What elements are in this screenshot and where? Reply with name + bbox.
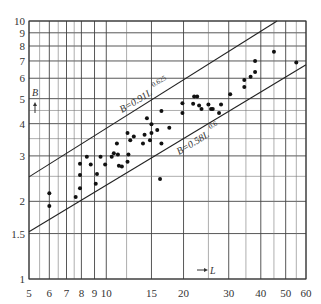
fit-lines [29, 21, 306, 232]
x-tick-labels: 5678910152030405060 [26, 287, 312, 299]
right-arrowhead-icon [204, 268, 208, 272]
data-point [85, 155, 89, 159]
y-axis-label: B [32, 87, 38, 113]
data-point [145, 116, 149, 120]
data-point [74, 195, 78, 199]
data-point [217, 111, 221, 115]
y-tick-label: 4 [20, 118, 26, 130]
data-point [206, 102, 210, 106]
data-point [78, 162, 82, 166]
data-point [126, 160, 130, 164]
data-point [99, 155, 103, 159]
data-point [159, 109, 163, 113]
x-tick-label: 5 [26, 287, 32, 299]
data-point [249, 75, 253, 79]
data-point [141, 142, 145, 146]
data-point [95, 172, 99, 176]
data-point [180, 101, 184, 105]
x-axis-title: L [209, 265, 216, 276]
x-tick-label: 20 [178, 287, 190, 299]
data-point [219, 102, 223, 106]
y-tick-label: 9 [20, 27, 26, 39]
upper-line-label: B=0.91L 0.625 [116, 74, 171, 115]
data-point [167, 126, 171, 130]
y-tick-label: 1.5 [11, 228, 25, 240]
data-point [103, 162, 107, 166]
data-point [115, 142, 119, 146]
lower-line-label: B=0.58L 0.6 [173, 119, 222, 156]
data-point [228, 92, 232, 96]
x-axis-label: L [197, 265, 216, 276]
data-point [242, 85, 246, 89]
data-point [149, 131, 153, 135]
y-tick-label: 5 [20, 93, 26, 105]
data-point [110, 155, 114, 159]
y-axis-title: B [32, 87, 38, 98]
data-point [158, 177, 162, 181]
y-tick-labels: 11.52345678910 [11, 15, 25, 285]
x-tick-label: 10 [101, 287, 113, 299]
data-point [253, 70, 257, 74]
data-point [47, 204, 51, 208]
data-point [132, 134, 136, 138]
data-point [78, 173, 82, 177]
data-point [128, 138, 132, 142]
x-tick-label: 6 [47, 287, 53, 299]
data-point [126, 131, 130, 135]
y-tick-label: 10 [14, 15, 26, 27]
y-tick-label: 7 [20, 55, 26, 67]
data-point [116, 152, 120, 156]
x-tick-label: 7 [64, 287, 70, 299]
data-point [159, 142, 163, 146]
data-point [195, 94, 199, 98]
x-tick-label: 60 [301, 287, 313, 299]
data-point [253, 59, 257, 63]
data-point [148, 138, 152, 142]
x-tick-label: 15 [146, 287, 158, 299]
log-log-scatter-chart: 5678910152030405060 11.52345678910 B L B… [0, 0, 321, 304]
data-point [47, 191, 51, 195]
lower-exponent: 0.6 [207, 119, 219, 131]
y-tick-label: 2 [20, 195, 26, 207]
data-point [149, 122, 153, 126]
grid-lines [29, 21, 306, 279]
x-tick-label: 30 [223, 287, 235, 299]
data-point [180, 111, 184, 115]
data-point [155, 128, 159, 132]
data-point [191, 102, 195, 106]
data-point [242, 78, 246, 82]
data-point [78, 186, 82, 190]
plot-frame [29, 21, 306, 279]
data-point [200, 107, 204, 111]
data-point [120, 164, 124, 168]
x-tick-label: 8 [79, 287, 85, 299]
data-point [294, 61, 298, 65]
x-tick-label: 9 [92, 287, 98, 299]
data-point [89, 162, 93, 166]
y-tick-label: 6 [20, 72, 26, 84]
x-tick-label: 40 [255, 287, 267, 299]
y-tick-label: 8 [20, 40, 26, 52]
x-tick-label: 50 [280, 287, 292, 299]
y-tick-label: 1 [20, 273, 26, 285]
data-point [112, 151, 116, 155]
data-point [94, 182, 98, 186]
up-arrowhead-icon [33, 102, 37, 106]
data-point [272, 50, 276, 54]
data-point [211, 107, 215, 111]
data-point [126, 152, 130, 156]
data-point [197, 104, 201, 108]
y-tick-label: 3 [20, 150, 26, 162]
upper-exponent: 0.625 [150, 74, 168, 89]
data-point [143, 133, 147, 137]
